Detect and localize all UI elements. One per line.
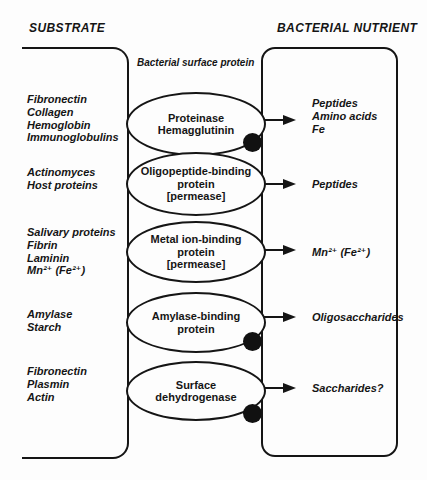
substrate-item: Immunoglobulins: [27, 131, 119, 144]
substrate-list-row5: Fibronectin Plasmin Actin: [27, 365, 87, 403]
arrowhead-row5-icon: [283, 383, 296, 393]
substrate-item: Mn²⁺ (Fe²⁺): [27, 264, 116, 277]
membrane-dot-row1-icon: [243, 133, 262, 152]
substrate-item: Actin: [27, 391, 87, 404]
nutrient-list-row1: Peptides Amino acids Fe: [312, 97, 377, 136]
protein-name: [permease]: [167, 190, 226, 203]
protein-name: Surface: [176, 379, 216, 392]
substrate-list-row1: Fibronectin Collagen Hemoglobin Immunogl…: [27, 93, 119, 144]
arrowhead-row1-icon: [283, 115, 296, 125]
substrate-item: Amylase: [27, 308, 72, 321]
protein-name: protein: [177, 246, 214, 259]
protein-name: Metal ion-binding: [150, 233, 241, 246]
nutrient-item: Oligosaccharides: [312, 311, 404, 324]
protein-name: Hemagglutinin: [158, 124, 234, 137]
substrate-item: Hemoglobin: [27, 119, 119, 132]
substrate-list-row2: Actinomyces Host proteins: [27, 166, 98, 192]
substrate-item: Host proteins: [27, 179, 98, 192]
protein-name: dehydrogenase: [155, 391, 236, 404]
arrowhead-row4-icon: [283, 312, 296, 322]
protein-name: protein: [177, 323, 214, 336]
nutrient-item: Saccharides?: [312, 382, 384, 395]
figure-canvas: SUBSTRATE BACTERIAL NUTRIENT Bacterial s…: [0, 0, 427, 480]
bacterial-nutrient-heading: BACTERIAL NUTRIENT: [277, 21, 417, 35]
membrane-dot-row4-icon: [243, 332, 262, 351]
nutrient-list-row4: Oligosaccharides: [312, 311, 404, 324]
nutrient-list-row3: Mn²⁺ (Fe²⁺): [312, 246, 370, 259]
substrate-heading: SUBSTRATE: [29, 21, 105, 35]
substrate-item: Salivary proteins: [27, 226, 116, 239]
protein-ellipse-metal-ion: Metal ion-binding protein [permease]: [126, 221, 266, 283]
nutrient-list-row5: Saccharides?: [312, 382, 384, 395]
substrate-list-row3: Salivary proteins Fibrin Laminin Mn²⁺ (F…: [27, 226, 116, 277]
substrate-item: Fibrin: [27, 239, 116, 252]
membrane-dot-row5-icon: [243, 404, 262, 423]
substrate-item: Fibronectin: [27, 365, 87, 378]
substrate-item: Collagen: [27, 106, 119, 119]
substrate-item: Laminin: [27, 252, 116, 265]
arrowhead-row2-icon: [283, 179, 296, 189]
substrate-list-row4: Amylase Starch: [27, 308, 72, 334]
protein-name: Oligopeptide-binding: [141, 165, 252, 178]
arrowhead-row3-icon: [283, 245, 296, 255]
protein-name: [permease]: [167, 258, 226, 271]
substrate-item: Fibronectin: [27, 93, 119, 106]
substrate-item: Actinomyces: [27, 166, 98, 179]
substrate-item: Starch: [27, 321, 72, 334]
nutrient-item: Peptides: [312, 97, 377, 110]
protein-name: Amylase-binding: [152, 310, 241, 323]
nutrient-item: Peptides: [312, 178, 358, 191]
protein-name: Proteinase: [168, 112, 224, 125]
surface-protein-label: Bacterial surface protein: [137, 57, 254, 68]
nutrient-item: Amino acids: [312, 110, 377, 123]
nutrient-list-row2: Peptides: [312, 178, 358, 191]
substrate-item: Plasmin: [27, 378, 87, 391]
nutrient-item: Mn²⁺ (Fe²⁺): [312, 246, 370, 259]
protein-name: protein: [177, 178, 214, 191]
nutrient-item: Fe: [312, 123, 377, 136]
protein-ellipse-oligopeptide: Oligopeptide-binding protein [permease]: [126, 152, 266, 216]
